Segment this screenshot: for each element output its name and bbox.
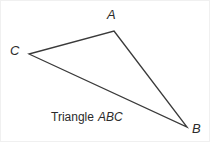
caption-word: Triangle: [51, 110, 94, 124]
vertex-label-a: A: [107, 8, 116, 21]
vertex-label-b: B: [192, 122, 201, 135]
figure-caption: TriangleABC: [51, 111, 123, 123]
vertex-label-c: C: [10, 44, 19, 57]
caption-triangle-name: ABC: [98, 110, 123, 124]
triangle-figure: A B C TriangleABC: [0, 0, 210, 142]
